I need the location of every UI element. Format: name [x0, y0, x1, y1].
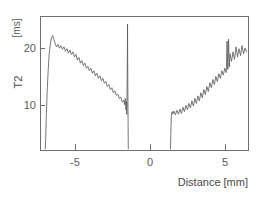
y-axis-label: T2: [12, 76, 24, 89]
t2-distance-plot: 20 10 -5 0 5 T2 [ms] Distance [mm]: [0, 0, 269, 197]
x-ticklabel-5: 5: [222, 156, 228, 168]
curve-left-branch: [45, 36, 127, 149]
y-axis-ticks: [40, 48, 45, 105]
y-axis-unit: [ms]: [11, 18, 22, 37]
plot-frame: [40, 16, 248, 150]
data-curves: [45, 24, 246, 149]
curve-right-branch: [170, 39, 246, 148]
y-ticklabel-20: 20: [24, 42, 36, 54]
y-ticklabel-10: 10: [24, 99, 36, 111]
chart-figure: 20 10 -5 0 5 T2 [ms] Distance [mm]: [0, 0, 269, 197]
x-axis-ticks: [75, 144, 225, 150]
x-axis-label: Distance [mm]: [178, 176, 248, 188]
curve-center-spike: [127, 24, 128, 149]
x-ticklabel-0: 0: [147, 156, 153, 168]
x-ticklabel-minus5: -5: [70, 156, 80, 168]
